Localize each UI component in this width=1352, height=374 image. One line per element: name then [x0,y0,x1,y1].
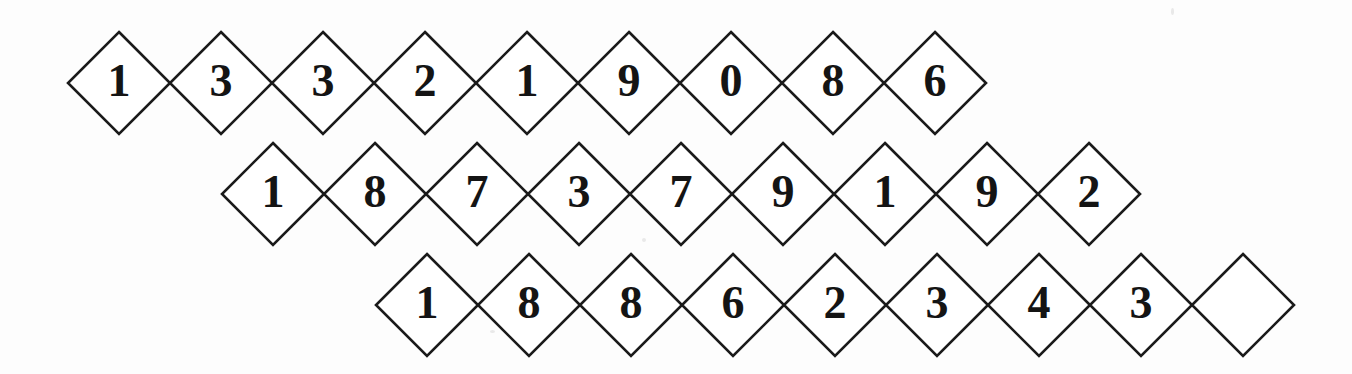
diamond-digit: 3 [312,55,335,106]
row-1: 133219086 [68,32,986,134]
diamond-rows-group: 13321908618737919218862343 [68,32,1294,356]
diamond-cell[interactable]: 9 [936,143,1038,245]
row-3: 18862343 [376,254,1294,356]
diamond-outline [1192,254,1294,356]
diamond-cell[interactable]: 2 [784,254,886,356]
diamond-cell[interactable]: 1 [222,143,324,245]
diamond-cell[interactable]: 3 [528,143,630,245]
diamond-digit: 8 [518,277,541,328]
diamond-cell[interactable]: 0 [680,32,782,134]
diamond-cell[interactable]: 4 [988,254,1090,356]
diamond-digit: 9 [976,166,999,217]
diamond-cell[interactable]: 1 [376,254,478,356]
diamond-digit: 6 [722,277,745,328]
diamond-digit: 6 [924,55,947,106]
diamond-digit: 9 [618,55,641,106]
diamond-cell[interactable]: 3 [886,254,988,356]
diamond-digit: 3 [1130,277,1153,328]
diamond-cell[interactable]: 1 [476,32,578,134]
diamond-digit: 7 [466,166,489,217]
diamond-digit: 2 [414,55,437,106]
diamond-digit: 3 [926,277,949,328]
diamond-cell[interactable]: 1 [834,143,936,245]
diamond-lattice-diagram: 13321908618737919218862343 [0,0,1352,374]
diagram-canvas: 13321908618737919218862343 [0,0,1352,374]
diamond-cell[interactable]: 3 [170,32,272,134]
diamond-digit: 9 [772,166,795,217]
diamond-digit: 1 [108,55,131,106]
diamond-cell[interactable]: 8 [478,254,580,356]
diamond-digit: 0 [720,55,743,106]
diamond-digit: 4 [1028,277,1051,328]
diamond-digit: 8 [364,166,387,217]
diamond-digit: 8 [822,55,845,106]
diamond-digit: 2 [824,277,847,328]
diamond-digit: 8 [620,277,643,328]
diamond-cell[interactable]: 1 [68,32,170,134]
diamond-digit: 1 [416,277,439,328]
diamond-cell[interactable]: 6 [884,32,986,134]
row-2: 187379192 [222,143,1140,245]
diamond-cell[interactable]: 3 [272,32,374,134]
diamond-cell[interactable]: 8 [782,32,884,134]
diamond-digit: 7 [670,166,693,217]
diamond-digit: 3 [210,55,233,106]
diamond-cell[interactable]: 6 [682,254,784,356]
diamond-digit: 3 [568,166,591,217]
diamond-digit: 1 [874,166,897,217]
diamond-cell[interactable]: 7 [426,143,528,245]
diamond-cell[interactable]: 2 [1038,143,1140,245]
diamond-cell[interactable]: 9 [578,32,680,134]
diamond-cell[interactable]: 9 [732,143,834,245]
diamond-cell[interactable]: 7 [630,143,732,245]
diamond-digit: 1 [262,166,285,217]
diamond-cell[interactable]: 8 [324,143,426,245]
diamond-digit: 2 [1078,166,1101,217]
diamond-cell[interactable]: 8 [580,254,682,356]
diamond-cell[interactable]: 3 [1090,254,1192,356]
diamond-cell[interactable]: 2 [374,32,476,134]
diamond-digit: 1 [516,55,539,106]
diamond-cell-empty[interactable] [1192,254,1294,356]
